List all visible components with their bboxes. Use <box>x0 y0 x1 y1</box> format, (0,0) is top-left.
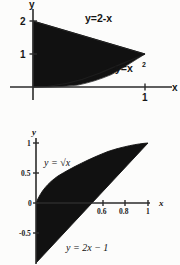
figure-1-canvas: 2 1 1 y x y=2-x y=x 2 <box>0 0 180 122</box>
annotation-y-equals-sqrt-x: y = √x <box>43 157 71 168</box>
figure-area-between-sqrt-and-line: 1 0.5 0 -0.5 0.6 0.8 1 y x y = √x y = 2x… <box>0 126 180 265</box>
figure-area-between-parabola-and-line: 2 1 1 y x y=2-x y=x 2 <box>0 0 180 122</box>
y-axis-label-figure-2: y <box>31 127 37 137</box>
annotation-y-equals-x-squared: y=x <box>115 62 133 74</box>
annotation-y-equals-2-minus-x: y=2-x <box>85 12 112 24</box>
figure-page: 2 1 1 y x y=2-x y=x 2 <box>0 0 180 265</box>
y-tick-label-1-figure-1: 1 <box>20 49 26 60</box>
x-axis-label-figure-1: x <box>172 82 178 93</box>
y-tick-label-2-figure-1: 2 <box>20 16 26 27</box>
x-tick-label-1-figure-1: 1 <box>142 92 148 103</box>
x-axis-label-figure-2: x <box>158 198 164 208</box>
annotation-y-equals-2x-minus-1: y = 2x − 1 <box>65 242 108 253</box>
x-tick-label-1-figure-2: 1 <box>146 207 150 216</box>
y-tick-label-0p5-figure-2: 0.5 <box>21 169 31 178</box>
annotation-x-squared-exponent: 2 <box>142 61 146 68</box>
y-axis-label-figure-1: y <box>29 0 35 10</box>
x-tick-label-0p6-figure-2: 0.6 <box>97 207 107 216</box>
figure-2-canvas: 1 0.5 0 -0.5 0.6 0.8 1 y x y = √x y = 2x… <box>0 126 180 265</box>
y-tick-label-0-figure-2: 0 <box>28 199 32 208</box>
y-tick-label-1-figure-2: 1 <box>27 139 31 148</box>
x-tick-label-0p8-figure-2: 0.8 <box>119 207 129 216</box>
annotation-y-equals-x-squared-group: y=x 2 <box>115 61 146 74</box>
y-tick-label-neg0p5-figure-2: -0.5 <box>19 229 31 238</box>
